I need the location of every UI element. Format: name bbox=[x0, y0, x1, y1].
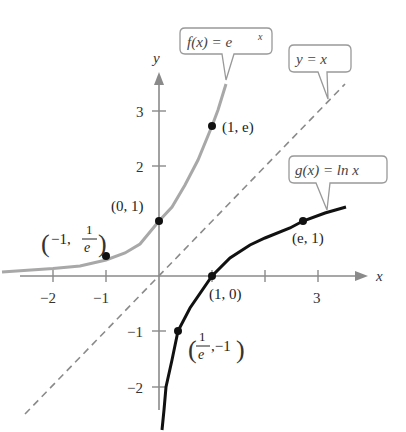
svg-text:,−1: ,−1 bbox=[211, 338, 231, 354]
y-tick-label-neg1: −1 bbox=[127, 324, 143, 340]
svg-text:(: ( bbox=[188, 335, 197, 364]
svg-text:g(x) = ln x: g(x) = ln x bbox=[295, 162, 359, 179]
callout-exp: f(x) = e x bbox=[180, 28, 272, 80]
chart-canvas: x y −2 −1 3 3 2 −1 −2 (1, e) (0, 1) (1, … bbox=[0, 0, 406, 432]
label-0-1: (0, 1) bbox=[111, 198, 144, 215]
point-recip-e-neg1 bbox=[174, 327, 182, 335]
svg-text:(: ( bbox=[41, 229, 50, 258]
svg-text:e: e bbox=[198, 347, 204, 362]
svg-text:1: 1 bbox=[199, 329, 206, 344]
exp-curve bbox=[2, 84, 226, 272]
svg-text:f(x) = e: f(x) = e bbox=[187, 34, 232, 51]
svg-text:e: e bbox=[84, 240, 90, 255]
svg-text:): ) bbox=[98, 229, 107, 258]
svg-text:1: 1 bbox=[86, 222, 93, 237]
svg-text:x: x bbox=[257, 31, 263, 42]
point-1-e bbox=[208, 122, 216, 130]
point-1-0 bbox=[208, 272, 216, 280]
x-axis-arrow-icon bbox=[355, 271, 368, 281]
svg-text:): ) bbox=[236, 335, 245, 364]
y-tick-label-3: 3 bbox=[136, 104, 144, 120]
point-e-1 bbox=[299, 217, 307, 225]
y-axis-arrow-icon bbox=[154, 72, 164, 85]
label-1-0: (1, 0) bbox=[209, 286, 242, 303]
x-axis-label: x bbox=[375, 268, 383, 284]
x-tick-label-3: 3 bbox=[313, 290, 321, 306]
callout-log: g(x) = ln x bbox=[289, 156, 387, 210]
point-0-1 bbox=[155, 217, 163, 225]
label-recip-e-neg1: ( 1 e ,−1 ) bbox=[188, 329, 245, 364]
label-1-e: (1, e) bbox=[222, 119, 254, 136]
x-tick-label-neg1: −1 bbox=[93, 290, 109, 306]
y-tick-label-neg2: −2 bbox=[127, 380, 143, 396]
y-axis-label: y bbox=[151, 50, 160, 66]
y-tick-label-2: 2 bbox=[136, 159, 144, 175]
svg-text:−1,: −1, bbox=[51, 231, 71, 247]
label-neg1-recip-e: ( −1, 1 e ) bbox=[41, 222, 107, 258]
callout-identity: y = x bbox=[289, 45, 351, 99]
svg-text:y = x: y = x bbox=[294, 51, 327, 67]
identity-line bbox=[25, 84, 345, 414]
x-tick-label-neg2: −2 bbox=[40, 290, 56, 306]
label-e-1: (e, 1) bbox=[292, 230, 324, 247]
